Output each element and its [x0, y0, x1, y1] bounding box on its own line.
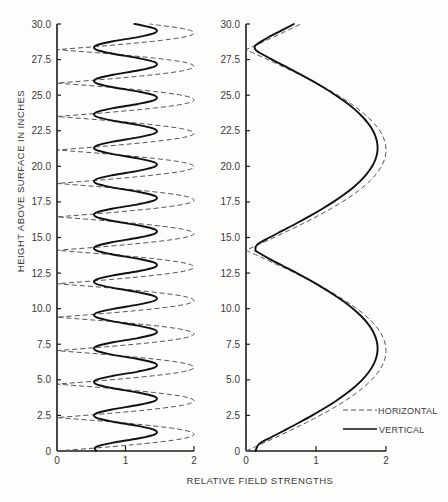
x-axis-label: RELATIVE FIELD STRENGTHS [187, 475, 334, 486]
legend-horizontal-label: HORIZONTAL [378, 406, 437, 416]
right-y-tick-label: 25.0 [221, 90, 241, 101]
right-y-tick-label: 20.0 [221, 161, 241, 172]
left-y-tick-label: 12.5 [32, 268, 52, 279]
left-y-tick-label: 17.5 [32, 196, 52, 207]
field-strength-figure: 02.55.07.510.012.515.017.520.022.525.027… [0, 0, 448, 502]
right-y-tick-label: 0 [234, 446, 240, 457]
left-y-tick-label: 25.0 [32, 90, 52, 101]
left-horizontal-curve [57, 24, 194, 451]
right-y-tick-label: 5.0 [226, 374, 240, 385]
right-y-tick-label: 27.5 [221, 54, 241, 65]
left-panel: 02.55.07.510.012.515.017.520.022.525.027… [32, 19, 198, 467]
right-x-tick-label: 0 [243, 455, 249, 466]
right-horizontal-curve [246, 24, 386, 451]
right-y-tick-label: 30.0 [221, 19, 241, 30]
right-panel: 02.55.07.510.012.515.017.520.022.525.027… [221, 19, 390, 467]
left-vertical-curve [94, 24, 157, 451]
left-y-tick-label: 0 [45, 446, 51, 457]
left-y-tick-label: 7.5 [37, 339, 51, 350]
right-y-tick-label: 17.5 [221, 196, 241, 207]
left-x-tick-label: 2 [191, 455, 197, 466]
left-y-tick-label: 30.0 [32, 19, 52, 30]
left-y-tick-label: 5.0 [37, 374, 51, 385]
legend: HORIZONTAL VERTICAL [343, 406, 437, 435]
y-axis-label: HEIGHT ABOVE SURFACE IN INCHES [15, 90, 26, 272]
left-x-tick-label: 1 [123, 455, 129, 466]
left-y-tick-label: 2.5 [37, 410, 51, 421]
right-axes: 02.55.07.510.012.515.017.520.022.525.027… [221, 19, 390, 467]
left-x-tick-label: 0 [54, 455, 60, 466]
left-y-tick-label: 27.5 [32, 54, 52, 65]
right-curves [246, 24, 386, 451]
left-y-tick-label: 22.5 [32, 125, 52, 136]
left-curves [57, 24, 194, 451]
right-y-tick-label: 2.5 [226, 410, 240, 421]
legend-vertical-label: VERTICAL [379, 425, 424, 435]
right-y-tick-label: 15.0 [221, 232, 241, 243]
left-y-tick-label: 15.0 [32, 232, 52, 243]
left-y-tick-label: 10.0 [32, 303, 52, 314]
right-y-tick-label: 10.0 [221, 303, 241, 314]
right-x-tick-label: 2 [383, 455, 389, 466]
right-y-tick-label: 22.5 [221, 125, 241, 136]
right-y-tick-label: 7.5 [226, 339, 240, 350]
right-x-tick-label: 1 [313, 455, 319, 466]
right-y-tick-label: 12.5 [221, 268, 241, 279]
left-y-tick-label: 20.0 [32, 161, 52, 172]
